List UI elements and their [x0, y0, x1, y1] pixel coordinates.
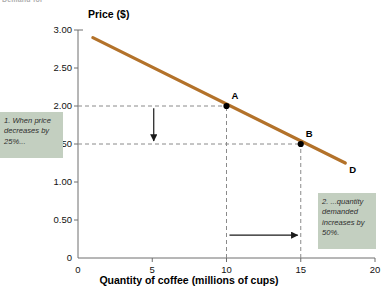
x-axis-tick-label: 5 [140, 264, 164, 275]
x-axis-tick-label: 15 [289, 264, 313, 275]
x-axis-tick-label: 20 [363, 264, 385, 275]
callout-quantity-increase: 2. ...quantity demanded increases by 50%… [318, 193, 376, 249]
point-label-B: B [306, 128, 313, 139]
y-axis-tick-label: 0.50 [38, 214, 72, 225]
y-axis-tick-label: 2.50 [38, 62, 72, 73]
y-axis-tick-label: 0 [38, 252, 72, 263]
y-axis-tick-label: 1.00 [38, 176, 72, 187]
callout-price-decrease: 1. When price decreases by 25%... [0, 112, 63, 158]
curve-label-D: D [349, 164, 356, 175]
y-axis-tick-label: 3.00 [38, 24, 72, 35]
data-point-B [298, 141, 304, 147]
point-label-A: A [232, 90, 239, 101]
data-point-A [223, 103, 229, 109]
x-axis-tick-label: 10 [215, 264, 239, 275]
x-axis-tick-label: 0 [66, 264, 90, 275]
y-axis-tick-label: 2.00 [38, 100, 72, 111]
